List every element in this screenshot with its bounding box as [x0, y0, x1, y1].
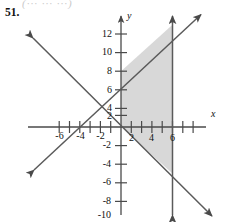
y-tick-label--4: -4 [92, 158, 111, 169]
y-tick-label-2: 2 [94, 110, 112, 121]
line-y-equals-x-plus-6 [34, 15, 201, 171]
y-tick-label--8: -8 [92, 195, 111, 206]
y-axis-label: y [127, 10, 131, 21]
y-tick-label--10: -10 [88, 209, 111, 220]
x-tick-label-2: 2 [124, 132, 139, 143]
x-tick-label--6: -6 [51, 130, 68, 141]
coordinate-graph [0, 0, 227, 222]
y-tick-label-8: 8 [94, 65, 112, 76]
y-tick-label-10: 10 [94, 46, 112, 57]
y-tick-label-12: 12 [94, 28, 112, 39]
y-tick-label--2: -2 [92, 139, 111, 150]
x-tick-label-4: 4 [144, 132, 159, 143]
x-tick-label-6: 6 [165, 132, 180, 143]
x-tick-label--4: -4 [72, 130, 89, 141]
y-tick-label--6: -6 [92, 176, 111, 187]
y-tick-label-6: 6 [94, 84, 112, 95]
x-axis-label: x [211, 108, 215, 119]
